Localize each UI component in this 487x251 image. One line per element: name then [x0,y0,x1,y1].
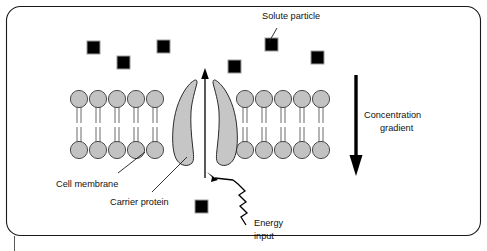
right-lower-lipid-heads [236,141,329,158]
carrier-protein-leader-line [152,157,187,192]
transport-direction-arrow [201,68,209,178]
left-lower-lipid-heads [70,141,163,158]
energy-input-arrow-shaft [215,178,233,180]
right-lipid-tails [243,107,323,142]
transport-arrowhead [201,68,209,79]
solute-particle-5 [265,38,278,51]
diagram-canvas: Solute particle Concentration gradient C… [0,0,487,251]
concentration-gradient-label-line2: gradient [380,123,414,133]
solute-particle-3 [157,40,170,53]
solute-particle-6 [311,51,324,64]
cell-membrane-label: Cell membrane [56,179,118,189]
solute-particle-2 [117,56,130,69]
carrier-protein-left-lobe [173,80,197,165]
solute-particle-7 [195,200,208,213]
left-upper-lipid-heads [70,90,163,107]
active-transport-diagram: Solute particle Concentration gradient C… [0,0,487,251]
concentration-gradient-arrow [350,75,363,176]
right-lipid-bilayer [236,90,329,158]
concentration-gradient-label-line1: Concentration [364,110,421,120]
energy-input-arrow [207,172,247,225]
energy-input-label-line1: Energy [254,218,284,228]
gradient-arrowhead [350,155,363,176]
solute-particle-4 [228,60,241,73]
carrier-protein-right-lobe [213,80,237,165]
left-lipid-bilayer [70,90,163,158]
energy-input-label-line2: input [254,231,274,241]
solute-particle-1 [87,41,100,54]
figure-border [7,7,481,236]
energy-input-squiggle [233,180,247,225]
right-upper-lipid-heads [236,90,329,107]
left-lipid-tails [77,107,157,142]
carrier-protein-label: Carrier protein [110,197,169,207]
energy-input-arrowhead [207,172,218,182]
solute-particle-label: Solute particle [262,11,320,21]
